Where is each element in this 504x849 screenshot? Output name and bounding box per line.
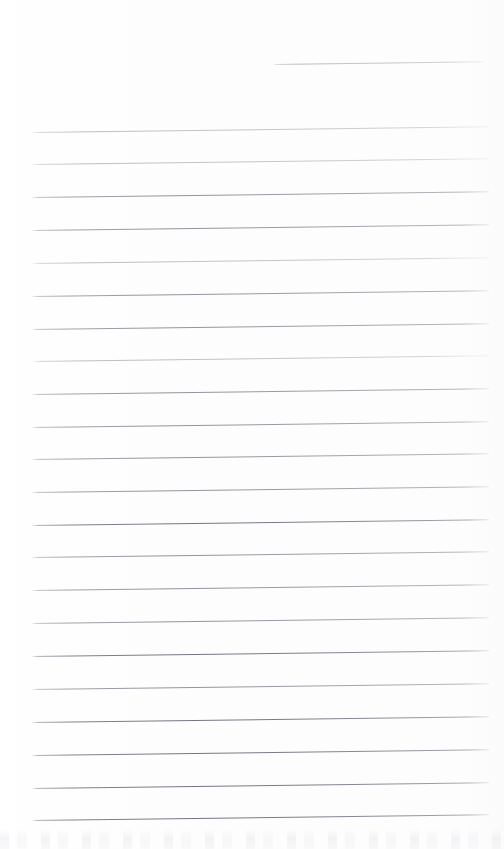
ruled-line-ink <box>31 323 489 330</box>
ruled-line-ink <box>31 224 489 231</box>
ruled-line-ink <box>31 519 489 526</box>
ruled-line <box>31 617 489 624</box>
ruled-line-ink <box>31 388 489 395</box>
ruled-line <box>31 716 489 723</box>
ruled-line <box>31 191 489 198</box>
ruled-line-ink <box>31 617 489 624</box>
ruled-line <box>31 814 489 821</box>
ruled-line <box>31 551 489 558</box>
ruled-line <box>31 749 489 756</box>
ruled-line-ink <box>31 683 489 690</box>
ruled-line <box>31 683 489 690</box>
ruled-line-ink <box>31 191 489 198</box>
ruled-line <box>31 224 489 231</box>
scanned-page <box>0 0 504 849</box>
ruled-line <box>31 158 489 165</box>
ruled-line <box>31 290 489 297</box>
ruled-line <box>31 126 489 133</box>
ruled-line-ink <box>31 551 489 558</box>
ruled-line-ink <box>31 290 489 297</box>
ruled-line <box>31 323 489 330</box>
ruled-line <box>31 486 489 493</box>
ruled-line <box>31 650 489 657</box>
paper-surface <box>0 0 504 849</box>
ruled-line-ink <box>31 486 489 493</box>
ruled-line <box>31 782 489 789</box>
ruled-line-ink <box>31 782 489 789</box>
ruled-line-ink <box>31 584 489 591</box>
ruled-line <box>31 584 489 591</box>
ruled-line-ink <box>31 650 489 657</box>
ruled-line <box>31 257 489 264</box>
ruled-line-ink <box>31 355 489 362</box>
ruled-line-ink <box>31 749 489 756</box>
ruled-line-ink <box>31 126 489 133</box>
ruled-line <box>31 519 489 526</box>
ruled-line <box>31 421 489 428</box>
page-bleed-through-artifact <box>0 829 504 849</box>
ruled-line <box>273 61 485 65</box>
ruled-line-ink <box>31 716 489 723</box>
ruled-line-ink <box>31 421 489 428</box>
ruled-line <box>31 355 489 362</box>
ruled-line-ink <box>31 814 489 821</box>
ruled-line-ink <box>31 257 489 264</box>
ruled-line-ink <box>31 158 489 165</box>
ruled-line <box>31 453 489 460</box>
ruled-line-ink <box>273 61 485 65</box>
ruled-line <box>31 388 489 395</box>
ruled-line-ink <box>31 453 489 460</box>
